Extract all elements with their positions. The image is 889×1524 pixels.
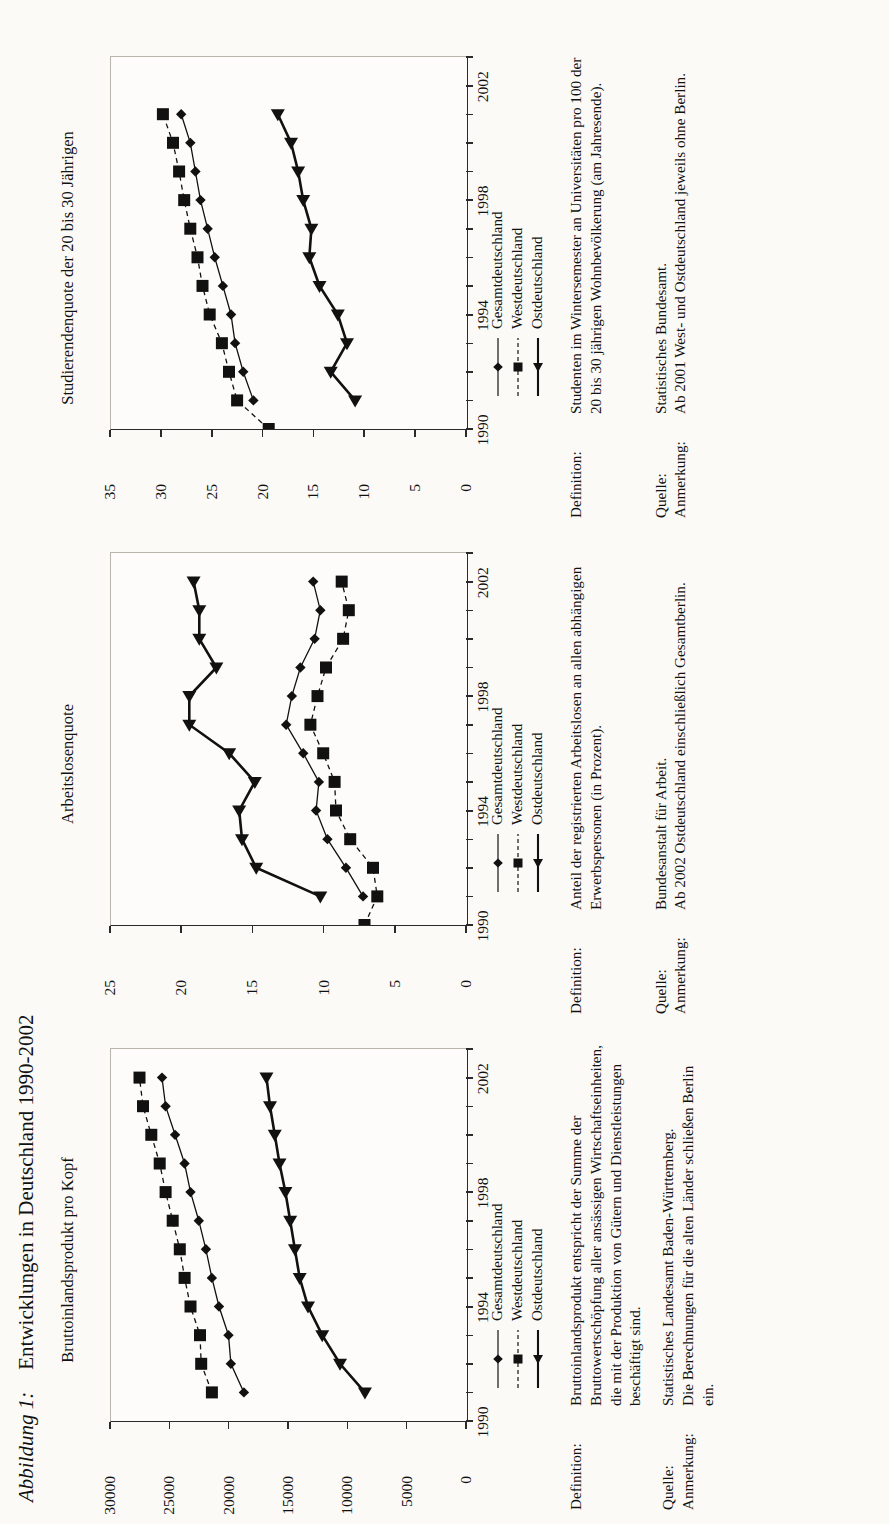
legend-label-west: Westdeutschland (508, 228, 528, 329)
legend-entry-west: Westdeutschland (508, 1204, 528, 1390)
legend-entry-ost: Ostdeutschland (528, 708, 548, 894)
plot-svg-arbeitslosenquote (111, 553, 467, 925)
y-axis-tick-label: 10 (315, 980, 333, 996)
x-axis-tick-mark (466, 257, 473, 259)
y-axis-tick-mark (394, 926, 396, 933)
y-axis-tick-label: 0 (457, 484, 475, 492)
y-axis-tick-label: 5 (386, 980, 404, 988)
quelle-label: Quelle: (651, 414, 671, 518)
y-axis-tick-label: 0 (457, 1476, 475, 1484)
figure-page: Abbildung 1:Entwicklungen in Deutschland… (0, 0, 889, 1524)
legend-key-triangle-icon (531, 1328, 545, 1390)
x-axis-tick-mark (466, 724, 473, 726)
y-axis-tick-mark (465, 1422, 467, 1429)
x-axis-tick-mark (466, 781, 473, 783)
y-axis-tick-mark (169, 1422, 171, 1429)
y-axis-tick-label: 15000 (279, 1476, 297, 1515)
legend-studierendenquote: Gesamtdeutschland Westdeutschland Ostdeu… (488, 212, 548, 398)
definition-row: Definition: Anteil der registrierten Arb… (566, 544, 606, 1014)
y-axis-tick-label: 20000 (220, 1476, 238, 1515)
anmerkung-row: Anmerkung: Die Berechnungen für die alte… (678, 1040, 718, 1510)
legend-label-gesamt: Gesamtdeutschland (488, 1204, 508, 1321)
y-axis-tick-label: 25 (101, 980, 119, 996)
x-axis-tick-mark (466, 1077, 473, 1079)
x-axis-tick-mark (466, 1363, 473, 1365)
x-axis-tick-mark (466, 695, 473, 697)
legend-key-diamond-icon (491, 832, 505, 894)
definition-label: Definition: (566, 1406, 645, 1510)
y-axis-tick-mark (465, 430, 467, 437)
chart-panel-bip: Bruttoinlandsprodukt pro Kopf 0500010000… (56, 1010, 556, 1510)
x-axis-tick-mark (466, 753, 473, 755)
x-axis-tick-mark (466, 667, 473, 669)
x-axis-tick-mark (466, 285, 473, 287)
quelle-row: Quelle: Statistisches Bundesamt. (651, 48, 671, 518)
definition-text: Anteil der registrierten Arbeitslosen an… (566, 544, 606, 910)
legend-key-square-icon (511, 336, 525, 398)
x-axis-tick-mark (466, 581, 473, 583)
chart-panels: Bruttoinlandsprodukt pro Kopf 0500010000… (56, 10, 556, 1510)
x-axis-tick-mark (466, 1420, 473, 1422)
page-title: Entwicklungen in Deutschland 1990-2002 (14, 1015, 38, 1370)
x-axis-tick-mark (466, 400, 473, 402)
anmerkung-label: Anmerkung: (670, 910, 690, 1014)
x-axis-tick-label: 2002 (474, 1063, 492, 1094)
x-axis-tick-mark (466, 1048, 473, 1050)
legend-key-square-icon (511, 1328, 525, 1390)
x-axis-tick-mark (466, 924, 473, 926)
x-axis-tick-mark (466, 428, 473, 430)
x-axis-tick-label: 1990 (474, 1407, 492, 1438)
x-axis-tick-mark (466, 638, 473, 640)
notes-studierendenquote: Definition: Studenten im Wintersemester … (566, 48, 690, 518)
y-axis-tick-label: 30 (152, 484, 170, 500)
legend-entry-west: Westdeutschland (508, 708, 528, 894)
y-axis-tick-label: 25000 (160, 1476, 178, 1515)
legend-label-ost: Ostdeutschland (528, 733, 548, 825)
y-axis-tick-label: 25 (203, 484, 221, 500)
y-axis-tick-mark (109, 1422, 111, 1429)
legend-bip: Gesamtdeutschland Westdeutschland Ostdeu… (488, 1204, 548, 1390)
plot-area-arbeitslosenquote (110, 552, 468, 926)
definition-text: Bruttoinlandsprodukt entspricht der Summ… (566, 1040, 645, 1406)
anmerkung-text: Ab 2001 West- und Ostdeutschland jeweils… (670, 48, 690, 414)
y-axis-tick-mark (347, 1422, 349, 1429)
anmerkung-row: Anmerkung: Ab 2001 West- und Ostdeutschl… (670, 48, 690, 518)
x-axis-tick-mark (466, 552, 473, 554)
y-axis-tick-mark (465, 926, 467, 933)
x-axis-tick-mark (466, 1249, 473, 1251)
y-axis-tick-label: 30000 (101, 1476, 119, 1515)
x-axis-tick-mark (466, 343, 473, 345)
legend-entry-ost: Ostdeutschland (528, 1204, 548, 1390)
definition-row: Definition: Studenten im Wintersemester … (566, 48, 606, 518)
chart-panel-arbeitslosenquote: Arbeitslosenquote 0510152025199019941998… (56, 514, 556, 1014)
chart-title-bip: Bruttoinlandsprodukt pro Kopf (58, 1010, 79, 1510)
y-axis-tick-mark (363, 430, 365, 437)
y-axis-tick-mark (313, 430, 315, 437)
plot-area-bip (110, 1048, 468, 1422)
definition-label: Definition: (566, 910, 606, 1014)
x-axis-tick-mark (466, 1134, 473, 1136)
quelle-text: Statistisches Bundesamt. (651, 48, 671, 414)
y-axis-tick-label: 15 (304, 484, 322, 500)
x-axis-tick-mark (466, 228, 473, 230)
y-axis-tick-label: 20 (254, 484, 272, 500)
quelle-row: Quelle: Statistisches Landesamt Baden-Wü… (658, 1040, 678, 1510)
x-axis-tick-label: 2002 (474, 567, 492, 598)
y-axis-tick-mark (109, 926, 111, 933)
x-axis-tick-mark (466, 114, 473, 116)
chart-title-arbeitslosenquote: Arbeitslosenquote (58, 514, 79, 1014)
legend-entry-ost: Ostdeutschland (528, 212, 548, 398)
x-axis-tick-mark (466, 1335, 473, 1337)
legend-key-square-icon (511, 832, 525, 894)
y-axis-tick-label: 35 (101, 484, 119, 500)
figure-heading: Abbildung 1:Entwicklungen in Deutschland… (14, 1015, 39, 1502)
notes-bip: Definition: Bruttoinlandsprodukt entspri… (566, 1040, 717, 1510)
rotated-page-wrapper: Abbildung 1:Entwicklungen in Deutschland… (0, 0, 889, 1524)
anmerkung-label: Anmerkung: (678, 1406, 718, 1510)
legend-entry-gesamt: Gesamtdeutschland (488, 212, 508, 398)
quelle-label: Quelle: (658, 1406, 678, 1510)
legend-key-diamond-icon (491, 1328, 505, 1390)
plot-area-studierendenquote (110, 56, 468, 430)
legend-key-triangle-icon (531, 832, 545, 894)
chart-title-studierendenquote: Studierendenquote der 20 bis 30 Jährigen (58, 18, 79, 518)
